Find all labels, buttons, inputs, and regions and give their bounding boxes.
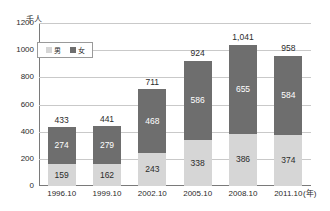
legend-item-female: 女 <box>70 47 85 54</box>
bar-value-male: 162 <box>93 171 121 180</box>
bar-total-label: 441 <box>93 115 121 124</box>
y-axis-tick: 0 <box>0 182 34 190</box>
x-axis-tick: 2002.10 <box>130 190 174 198</box>
bar-value-male: 159 <box>48 171 76 180</box>
bar-stack: 3866551,041 <box>229 45 257 186</box>
gridline <box>39 159 311 160</box>
x-axis-tick: 2005.10 <box>176 190 220 198</box>
bar-stack: 162279441 <box>93 126 121 186</box>
bar-value-female: 586 <box>184 96 212 105</box>
bar-total-label: 1,041 <box>229 33 257 42</box>
bar-value-female: 279 <box>93 141 121 150</box>
gridline <box>39 77 311 78</box>
y-axis-tick: 800 <box>0 73 34 81</box>
bar-stack: 243468711 <box>138 89 166 186</box>
x-axis-unit-label: (年) <box>303 190 316 198</box>
chart-legend: 男 女 <box>37 42 93 58</box>
x-axis-tick: 1999.10 <box>85 190 129 198</box>
bar-value-male: 243 <box>138 165 166 174</box>
gridline <box>39 132 311 133</box>
bar-value-male: 374 <box>274 156 302 165</box>
bar-value-female: 274 <box>48 141 76 150</box>
gridline <box>39 105 311 106</box>
bar-value-female: 655 <box>229 85 257 94</box>
y-axis-tick: 1000 <box>0 46 34 54</box>
y-axis-tick: 400 <box>0 128 34 136</box>
legend-swatch-female-icon <box>70 47 76 53</box>
y-axis-tick: 200 <box>0 155 34 163</box>
bar-total-label: 924 <box>184 49 212 58</box>
chart-container: 千人 020040060080010001200 159274433162279… <box>0 0 330 211</box>
x-axis-tick: 2008.10 <box>221 190 265 198</box>
x-axis-tick: 1996.10 <box>40 190 84 198</box>
gridline <box>39 23 311 24</box>
bar-total-label: 711 <box>138 78 166 87</box>
bar-total-label: 958 <box>274 44 302 53</box>
legend-item-male: 男 <box>46 47 61 54</box>
bar-value-female: 468 <box>138 117 166 126</box>
y-axis-tick: 600 <box>0 101 34 109</box>
bar-value-male: 338 <box>184 159 212 168</box>
bar-value-female: 584 <box>274 91 302 100</box>
bar-stack: 159274433 <box>48 127 76 186</box>
bar-stack: 338586924 <box>184 61 212 187</box>
legend-swatch-male-icon <box>46 47 52 53</box>
legend-label-female: 女 <box>78 47 85 54</box>
bar-value-male: 386 <box>229 155 257 164</box>
bar-total-label: 433 <box>48 116 76 125</box>
bar-stack: 374584958 <box>274 56 302 186</box>
legend-label-male: 男 <box>54 47 61 54</box>
